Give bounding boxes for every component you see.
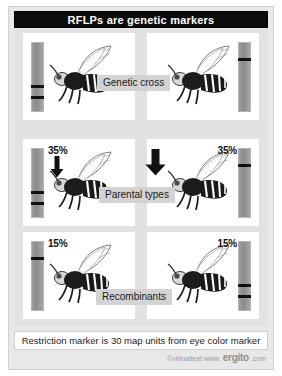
stage-label-parental-types: Parental types	[99, 187, 175, 203]
credit-brand: ergito	[223, 352, 249, 363]
panel-recombinants-left: 15%	[23, 232, 135, 319]
fruit-fly-icon	[49, 151, 115, 213]
row-parental-types: 35%	[14, 139, 268, 226]
gel-lane	[31, 241, 44, 311]
credit-www: www.	[204, 355, 221, 362]
panel-recombinants-right: 15%	[147, 232, 259, 319]
page-title: RFLPs are genetic markers	[68, 14, 215, 26]
gel-lane	[238, 148, 251, 218]
percent-label: 35%	[218, 145, 237, 156]
credit-copyright: ©virtualtext	[167, 355, 202, 362]
gel-lane	[31, 148, 44, 218]
stage-label-genetic-cross: Genetic cross	[97, 75, 170, 91]
credit-tld: .com	[251, 355, 266, 362]
rflp-genetic-markers-figure: RFLPs are genetic markers	[0, 0, 282, 376]
gel-band	[238, 295, 251, 298]
gel-band	[31, 202, 44, 205]
gel-band	[238, 58, 251, 61]
gel-band	[31, 96, 44, 99]
credit-line: ©virtualtext www. ergito .com	[167, 352, 266, 363]
row-recombinants: 15%	[14, 232, 268, 319]
stage-label-recombinants: Recombinants	[96, 289, 172, 305]
down-arrow-icon	[145, 149, 166, 176]
panel-parental-left: 35%	[23, 139, 135, 226]
figure-title-bar: RFLPs are genetic markers	[14, 11, 268, 28]
fruit-fly-icon	[167, 151, 233, 213]
gel-band	[31, 257, 44, 260]
gel-lane	[238, 42, 251, 112]
figure-caption-box: Restriction marker is 30 map units from …	[14, 331, 268, 350]
fruit-fly-icon	[167, 244, 233, 306]
gel-band	[31, 85, 44, 88]
figure-caption: Restriction marker is 30 map units from …	[22, 335, 261, 346]
gel-band	[238, 164, 251, 167]
gel-lane	[238, 241, 251, 311]
gel-lane	[31, 42, 44, 112]
gel-band	[238, 284, 251, 287]
diagram-body: 35%	[14, 29, 268, 326]
gel-band	[31, 191, 44, 194]
percent-label: 15%	[218, 238, 237, 249]
fruit-fly-icon	[167, 45, 233, 107]
